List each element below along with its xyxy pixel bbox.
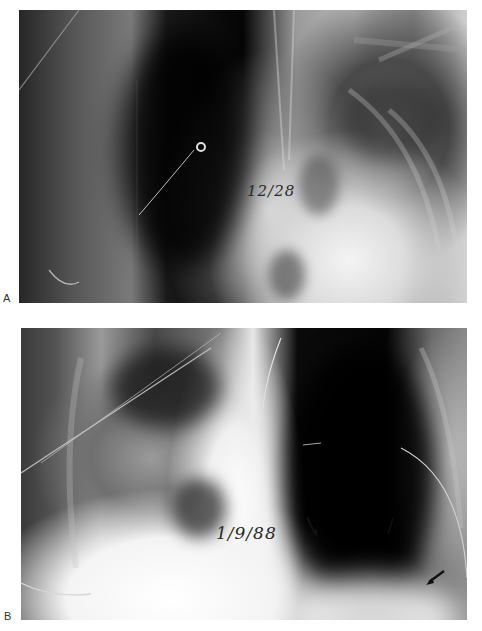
panel-label-a: A [3,293,10,304]
arrow-icon [426,571,444,585]
handwritten-date: 1/9/88 [216,523,277,543]
arrow-icon [307,517,318,538]
arrow-icon [388,518,393,534]
handwritten-date: 12/28 [247,182,295,200]
xray-lines [19,10,467,303]
xray-lines [21,328,467,620]
panel-label-b: B [4,611,11,622]
xray-panel-a: 12/28 [19,10,467,303]
xray-panel-b: 1/9/88 [21,328,467,620]
